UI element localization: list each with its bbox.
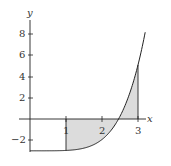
y-tick-label: 2	[19, 92, 25, 103]
y-tick-label: 6	[19, 49, 25, 60]
x-tick-label: 1	[63, 125, 69, 136]
shaded-area	[66, 65, 138, 151]
function-plot: y x 1 2 3 8 6 4 2 −2	[0, 0, 171, 166]
y-tick-label: −2	[11, 134, 26, 145]
y-axis-label: y	[26, 7, 33, 18]
x-axis-label: x	[147, 113, 153, 124]
x-tick-label: 2	[99, 125, 105, 136]
y-tick-label: 8	[19, 28, 25, 39]
y-tick-label: 4	[19, 71, 25, 82]
x-tick-label: 3	[135, 125, 141, 136]
